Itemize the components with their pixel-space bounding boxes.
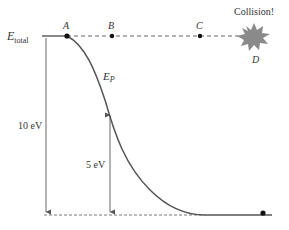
potential-energy-curve [67, 36, 272, 215]
particle-dot [260, 210, 265, 215]
point-a-dot [64, 33, 69, 38]
point-a-label: A [62, 20, 70, 31]
label-10ev: 10 eV [18, 120, 43, 131]
collision-burst-icon [237, 23, 270, 51]
label-5ev: 5 eV [86, 159, 106, 170]
point-b-label: B [108, 20, 114, 31]
point-c-label: C [196, 20, 203, 31]
e-total-label: Etotal [6, 29, 29, 45]
ep-label: EP [102, 70, 115, 84]
point-d-label: D [251, 54, 260, 65]
point-c-dot [198, 34, 202, 38]
collision-label: Collision! [234, 6, 274, 17]
energy-diagram: Etotal 10 eV 5 eV EP A B C Collision! D [0, 0, 289, 230]
point-b-dot [110, 34, 114, 38]
